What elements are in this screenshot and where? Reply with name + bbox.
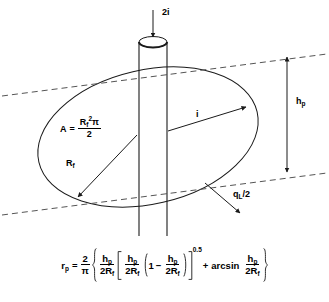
label-flow-i: i xyxy=(196,110,199,119)
term3-num-sub: p xyxy=(173,258,177,265)
bracket-right xyxy=(188,251,193,280)
label-height-base: h xyxy=(296,96,302,106)
formula-paren-group: 1 − hp 2Rf xyxy=(143,253,188,277)
flow-arrow-i xyxy=(168,107,246,131)
formula-plus: + xyxy=(203,260,209,271)
radius-arrow xyxy=(78,135,137,197)
term2-den-sub: f xyxy=(137,270,139,277)
formula-one: 1 xyxy=(149,260,154,271)
term4-denominator: 2Rf xyxy=(243,265,261,276)
term1-den-base: 2R xyxy=(100,265,112,276)
label-inflow-2i: 2i xyxy=(162,8,170,17)
term4-numerator: hp xyxy=(246,254,260,265)
label-flux-ql: qL/2 xyxy=(233,190,250,199)
term3-den-sub: f xyxy=(178,270,180,277)
label-radius-base: R xyxy=(66,158,73,168)
formula-exponent: 0.5 xyxy=(193,246,202,253)
label-radius-sub: f xyxy=(73,162,75,169)
area-num-pi: π xyxy=(92,117,99,127)
formula-term2: hp 2Rf xyxy=(123,254,141,276)
brace-right xyxy=(263,248,268,282)
area-lhs: A xyxy=(60,124,67,134)
label-flux-suffix: /2 xyxy=(242,189,250,199)
coefficient-denominator: π xyxy=(80,265,91,276)
technical-diagram: 2i i hp qL/2 Rf A = Rf2π 2 rp = 2 π xyxy=(0,0,329,302)
wetted-perimeter-formula: rp = 2 π hp 2Rf xyxy=(0,248,329,282)
term1-denominator: 2Rf xyxy=(98,265,116,276)
formula-term3: hp 2Rf xyxy=(163,254,181,276)
brace-left xyxy=(92,248,97,282)
term3-den-base: 2R xyxy=(165,265,177,276)
label-flux-base: q xyxy=(233,189,239,199)
term3-denominator: 2Rf xyxy=(163,265,181,276)
bracket-left xyxy=(117,251,122,280)
term4-den-base: 2R xyxy=(245,265,257,276)
formula-minus: − xyxy=(156,260,162,271)
term1-den-sub: f xyxy=(112,270,114,277)
paren-left xyxy=(143,253,148,277)
term1-num-sub: p xyxy=(108,258,112,265)
dashed-tangent-upper xyxy=(2,54,327,96)
formula-bracket-group: hp 2Rf 1 − hp 2Rf xyxy=(117,251,193,280)
term1-numerator: hp xyxy=(100,254,114,265)
label-height-sub: p xyxy=(302,100,306,107)
formula-brace-group: hp 2Rf hp 2Rf xyxy=(92,248,268,282)
label-height-hp: hp xyxy=(296,97,305,106)
label-flux-sub: L xyxy=(239,193,243,200)
term2-num-sub: p xyxy=(133,258,137,265)
label-radius-rf: Rf xyxy=(66,159,75,168)
area-num-sub: f xyxy=(86,121,88,128)
area-fraction: Rf2π 2 xyxy=(78,118,101,139)
formula-term1: hp 2Rf xyxy=(98,254,116,276)
formula-equals: = xyxy=(72,260,78,271)
formula-term4: hp 2Rf xyxy=(243,254,261,276)
term3-numerator: hp xyxy=(166,254,180,265)
dashed-tangent-lower xyxy=(2,173,327,215)
area-numerator: Rf2π xyxy=(78,118,101,129)
coefficient-numerator: 2 xyxy=(81,254,90,265)
term2-den-base: 2R xyxy=(125,265,137,276)
area-num-sup: 2 xyxy=(88,115,92,122)
term2-numerator: hp xyxy=(125,254,139,265)
formula-lhs: rp xyxy=(61,260,69,271)
term4-num-sub: p xyxy=(253,258,257,265)
formula-lhs-sub: p xyxy=(65,265,69,272)
term2-denominator: 2Rf xyxy=(123,265,141,276)
term4-den-sub: f xyxy=(257,270,259,277)
area-expression: A = Rf2π 2 xyxy=(60,118,101,139)
formula-arcsin: arcsin xyxy=(211,260,239,271)
area-denominator: 2 xyxy=(85,129,94,139)
formula-coefficient: 2 π xyxy=(80,254,91,276)
area-equals: = xyxy=(70,124,75,134)
